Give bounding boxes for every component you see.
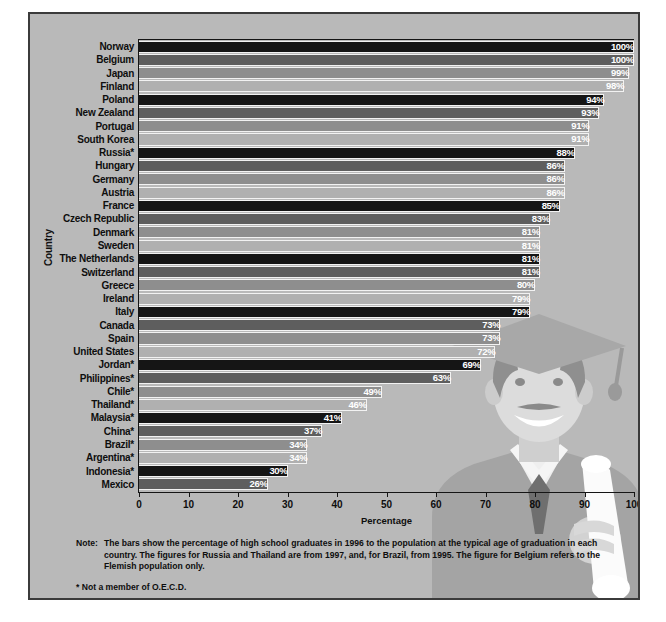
bar-row: Belgium100% <box>30 53 640 66</box>
x-tick-mark <box>189 492 190 497</box>
bar-category-label: Indonesia* <box>30 465 134 478</box>
bar-category-label: Poland <box>30 93 134 106</box>
bar-track: 86% <box>139 187 640 199</box>
bar-category-label: Hungary <box>30 159 134 172</box>
bar-category-label: Jordan* <box>30 358 134 371</box>
bar-value-label: 91% <box>139 133 592 145</box>
bar-category-label: Argentina* <box>30 451 134 464</box>
bar-value-label: 83% <box>139 213 553 225</box>
bar-category-label: China* <box>30 425 134 438</box>
bar-track: 34% <box>139 452 640 464</box>
bar-value-label: 72% <box>139 346 498 358</box>
bar-track: 83% <box>139 213 640 225</box>
bar-row: Poland94% <box>30 93 640 106</box>
bar-category-label: United States <box>30 345 134 358</box>
bar-category-label: Thailand* <box>30 398 134 411</box>
bar-value-label: 79% <box>139 306 533 318</box>
bar-row: New Zealand93% <box>30 106 640 119</box>
bar-chart: Country Norway100%Belgium100%Japan99%Fin… <box>30 14 640 600</box>
bar-category-label: Finland <box>30 80 134 93</box>
bar-track: 46% <box>139 399 640 411</box>
bar-row: Czech Republic83% <box>30 212 640 225</box>
bar-category-label: Brazil* <box>30 438 134 451</box>
bar-category-label: Portugal <box>30 120 134 133</box>
bar-row: The Netherlands81% <box>30 252 640 265</box>
bar-row: France85% <box>30 199 640 212</box>
x-tick-label: 30 <box>268 499 308 510</box>
bar-track: 79% <box>139 293 640 305</box>
x-tick-mark <box>238 492 239 497</box>
bar-row: Greece80% <box>30 279 640 292</box>
bar-track: 37% <box>139 425 640 437</box>
bar-row: Finland98% <box>30 80 640 93</box>
bar-value-label: 86% <box>139 187 568 199</box>
bar-category-label: Sweden <box>30 239 134 252</box>
bar-category-label: Spain <box>30 332 134 345</box>
x-tick-label: 80 <box>515 499 555 510</box>
bar-row: Denmark81% <box>30 226 640 239</box>
x-tick-mark <box>139 492 140 497</box>
bar-track: 100% <box>139 41 640 53</box>
bar-value-label: 81% <box>139 226 543 238</box>
bar-value-label: 26% <box>139 478 271 490</box>
x-tick-label: 10 <box>169 499 209 510</box>
bar-track: 63% <box>139 372 640 384</box>
x-tick-label: 0 <box>119 499 159 510</box>
bar-value-label: 41% <box>139 412 345 424</box>
bar-row: Thailand*46% <box>30 398 640 411</box>
bar-category-label: Norway <box>30 40 134 53</box>
bar-row: Norway100% <box>30 40 640 53</box>
bar-row: Ireland79% <box>30 292 640 305</box>
bar-track: 34% <box>139 439 640 451</box>
bar-row: Jordan*69% <box>30 358 640 371</box>
bar-row: Germany86% <box>30 173 640 186</box>
footnote-text: * Not a member of O.E.C.D. <box>76 582 624 592</box>
bar-category-label: Ireland <box>30 292 134 305</box>
bar-row: United States72% <box>30 345 640 358</box>
bar-row: Indonesia*30% <box>30 465 640 478</box>
bar-value-label: 46% <box>139 399 370 411</box>
x-tick-mark <box>486 492 487 497</box>
bar-row: Chile*49% <box>30 385 640 398</box>
bar-track: 88% <box>139 147 640 159</box>
bar-value-label: 100% <box>139 41 637 53</box>
bar-value-label: 81% <box>139 240 543 252</box>
bar-category-label: Chile* <box>30 385 134 398</box>
bar-track: 81% <box>139 240 640 252</box>
bar-value-label: 49% <box>139 386 385 398</box>
bar-track: 81% <box>139 266 640 278</box>
bar-value-label: 93% <box>139 107 602 119</box>
bar-row: Canada73% <box>30 319 640 332</box>
bar-value-label: 79% <box>139 293 533 305</box>
bar-value-label: 34% <box>139 439 310 451</box>
bar-track: 98% <box>139 80 640 92</box>
bar-value-label: 100% <box>139 54 637 66</box>
bar-value-label: 88% <box>139 147 578 159</box>
bar-row: Sweden81% <box>30 239 640 252</box>
bar-track: 81% <box>139 253 640 265</box>
bar-row: Philippines*63% <box>30 372 640 385</box>
bar-category-label: Japan <box>30 67 134 80</box>
bar-category-label: Germany <box>30 173 134 186</box>
bar-row: Spain73% <box>30 332 640 345</box>
bar-value-label: 94% <box>139 94 607 106</box>
bar-row: Japan99% <box>30 67 640 80</box>
bar-track: 91% <box>139 120 640 132</box>
x-tick-label: 40 <box>317 499 357 510</box>
bar-track: 91% <box>139 133 640 145</box>
bar-row: Portugal91% <box>30 120 640 133</box>
bar-category-label: Czech Republic <box>30 212 134 225</box>
bar-category-label: The Netherlands <box>30 252 134 265</box>
bar-value-label: 99% <box>139 67 632 79</box>
x-tick-label: 20 <box>218 499 258 510</box>
bar-value-label: 73% <box>139 319 503 331</box>
bar-value-label: 98% <box>139 80 627 92</box>
bar-value-label: 37% <box>139 425 325 437</box>
bar-category-label: Italy <box>30 305 134 318</box>
bar-rows-container: Norway100%Belgium100%Japan99%Finland98%P… <box>30 40 640 492</box>
x-tick-label: 90 <box>565 499 605 510</box>
bar-category-label: Russia* <box>30 146 134 159</box>
bar-value-label: 34% <box>139 452 310 464</box>
x-tick-mark <box>337 492 338 497</box>
bar-track: 73% <box>139 332 640 344</box>
